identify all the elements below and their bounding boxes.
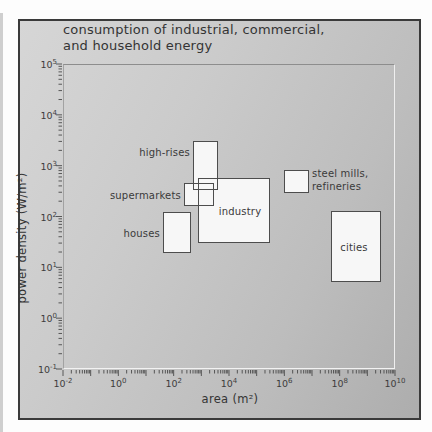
- y-tick-label-1e5: 105: [40, 59, 57, 70]
- x-tick-label-1e10: 1010: [384, 378, 405, 389]
- box-outline-supermarkets: [184, 183, 214, 206]
- x-tick-label-1e0: 100: [110, 378, 127, 389]
- label-supermarkets: supermarkets: [110, 189, 181, 200]
- x-axis-title: area (m²): [202, 392, 259, 406]
- y-axis-title: power density (W/m²): [15, 172, 29, 303]
- y-tick-label-1e2: 102: [40, 211, 57, 222]
- label-houses: houses: [123, 228, 160, 239]
- y-tick-label-1e1: 101: [40, 262, 57, 273]
- x-tick-label-1e4: 104: [221, 378, 238, 389]
- y-tick-label-1e4: 104: [40, 109, 57, 120]
- x-tick-label-1e6: 106: [276, 378, 293, 389]
- label-steel-mills: steel mills, refineries: [312, 167, 368, 193]
- x-tick-label-1e8: 108: [331, 378, 348, 389]
- chart-title-line-1: consumption of industrial, commercial,: [63, 22, 325, 38]
- scan-edge-artifact: [0, 13, 3, 432]
- label-steel-mills-line-2: refineries: [312, 180, 368, 193]
- label-high-rises: high-rises: [139, 147, 190, 158]
- chart-title: consumption of industrial, commercial, a…: [63, 22, 325, 53]
- chart-title-line-2: and household energy: [63, 38, 325, 54]
- y-tick-label-1e0: 100: [40, 313, 57, 324]
- y-tick-label-1e3: 103: [40, 160, 57, 171]
- label-steel-mills-line-1: steel mills,: [312, 167, 368, 180]
- label-cities: cities: [340, 242, 368, 253]
- box-outline-houses: [163, 212, 191, 253]
- x-tick-label-1e2: 102: [165, 378, 182, 389]
- label-industry: industry: [219, 206, 262, 217]
- y-tick-label-1e-1: 10-1: [38, 364, 57, 375]
- figure-page: consumption of industrial, commercial, a…: [0, 0, 432, 432]
- x-tick-label-1e-2: 10-2: [53, 378, 72, 389]
- box-outline-steel-mills: [284, 170, 309, 193]
